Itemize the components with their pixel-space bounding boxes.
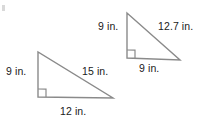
right-triangle-base-label: 9 in. — [139, 63, 159, 74]
left-triangle-hypotenuse-label: 15 in. — [82, 66, 108, 77]
left-triangle-base-label: 12 in. — [60, 106, 86, 117]
right-triangle-vertical-leg-label: 9 in. — [98, 21, 118, 32]
left-triangle-vertical-leg-label: 9 in. — [6, 66, 26, 77]
right-triangle-hypotenuse-label: 12.7 in. — [158, 21, 193, 32]
geometry-figure: 9 in. 15 in. 12 in. 9 in. 12.7 in. 9 in. — [0, 0, 204, 123]
left-triangle-right-angle-marker — [38, 89, 46, 97]
right-triangle-right-angle-marker — [127, 50, 135, 58]
triangles-canvas — [0, 0, 204, 123]
